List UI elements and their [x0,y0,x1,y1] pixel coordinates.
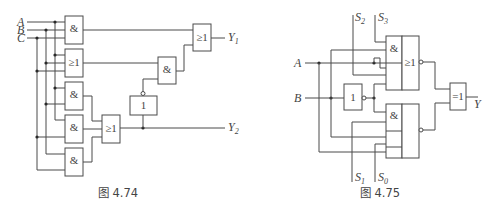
select-label-s3: S3 [378,10,388,26]
junction-dot [53,20,56,23]
gate-symbol: & [70,121,79,133]
junction-dot [53,86,56,89]
or-block-h3 [402,104,419,158]
input-label-b: B [294,91,302,105]
gate-symbol: & [70,88,79,100]
wire [176,45,193,71]
inversion-bubble [141,92,145,96]
input-label-a: A [293,56,302,70]
junction-dot [35,36,38,39]
output-label-y2: Y2 [228,120,239,136]
inversion-bubble [419,60,423,64]
gate-symbol: ≥1 [196,31,208,43]
junction-dot [44,28,47,31]
wire [374,98,386,112]
wire [423,62,450,89]
gate-symbol: & [70,22,79,34]
gate-symbol: & [390,109,399,121]
wire [423,103,450,130]
select-label-s2: S2 [355,10,365,26]
circuit-figures: A B C & [0,0,501,209]
gate-symbol: & [70,154,79,166]
inversion-bubble [419,128,423,132]
figure-4-75: S2 S3 A B 1 & ≥1 [293,10,482,200]
gate-symbol: ≥1 [404,56,416,68]
junction-dot [44,61,47,64]
figure-4-74: A B C & [16,15,239,200]
wire [83,137,102,162]
figure-caption-4-75: 图 4.75 [360,186,400,200]
input-label-c: C [17,31,26,45]
select-label-s1: S1 [355,170,365,186]
junction-dot [35,69,38,72]
gate-symbol: =1 [452,90,464,102]
figure-caption-4-74: 图 4.74 [98,186,138,200]
inversion-bubble [362,96,366,100]
gate-symbol: ≥1 [68,56,80,68]
gate-symbol: 1 [350,91,356,103]
wire [143,79,158,92]
wire [374,84,386,98]
wire [83,96,102,121]
junction-dot [44,102,47,105]
select-label-s0: S0 [378,170,388,186]
gate-symbol: ≥1 [105,122,117,134]
output-label-y: Y [474,97,482,111]
gate-symbol: & [163,63,172,75]
gate-symbol: 1 [141,99,147,111]
gate-symbol: & [390,42,399,54]
wire-s2 [353,15,386,75]
junction-dot [35,135,38,138]
junction-dot [53,53,56,56]
output-label-y1: Y1 [228,30,239,46]
